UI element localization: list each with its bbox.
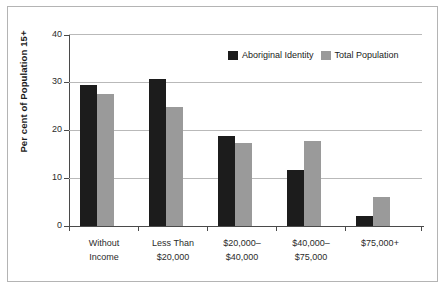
bar-total-20000-40000: [235, 143, 252, 226]
x-tick-mark-4: [345, 226, 346, 231]
legend-item-aboriginal-identity: Aboriginal Identity: [228, 50, 314, 60]
bar-total-75000-plus: [373, 197, 390, 226]
x-tick-mark-5: [421, 226, 422, 231]
bar-aboriginal-75000-plus: [356, 216, 373, 226]
y-tick-40: 40: [0, 35, 62, 47]
x-category-label-20000-40000: $20,000– $40,000: [207, 237, 277, 264]
y-tick-label-0: 0: [4, 220, 62, 230]
legend-label-aboriginal: Aboriginal Identity: [242, 50, 314, 60]
legend-label-total: Total Population: [335, 50, 399, 60]
bar-total-less-than-20000: [166, 107, 183, 226]
y-tick-label-30: 30: [4, 76, 62, 86]
y-tick-0: 0: [0, 226, 62, 238]
x-category-label-without-income: Without Income: [69, 237, 139, 264]
x-category-label-less-than-20000: Less Than $20,000: [138, 237, 208, 264]
bar-total-40000-75000: [304, 141, 321, 226]
y-tick-20: 20: [0, 130, 62, 142]
y-tick-10: 10: [0, 178, 62, 190]
plot-area: [69, 34, 422, 226]
bar-total-without-income: [97, 94, 114, 226]
x-category-label-75000-plus: $75,000+: [345, 237, 415, 251]
x-tick-mark-1: [138, 226, 139, 231]
x-tick-mark-3: [276, 226, 277, 231]
bar-aboriginal-40000-75000: [287, 170, 304, 226]
bar-aboriginal-without-income: [80, 85, 97, 226]
bar-aboriginal-less-than-20000: [149, 79, 166, 226]
legend-swatch-icon-total: [321, 51, 331, 60]
legend-swatch-icon-aboriginal: [228, 51, 238, 60]
gridline-20: [69, 130, 422, 131]
y-tick-30: 30: [0, 82, 62, 94]
y-tick-label-20: 20: [4, 124, 62, 134]
legend-item-total-population: Total Population: [321, 50, 399, 60]
gridline-40: [69, 34, 422, 35]
x-tick-mark-2: [207, 226, 208, 231]
y-tick-label-40: 40: [4, 29, 62, 39]
bar-aboriginal-20000-40000: [218, 136, 235, 226]
x-category-label-40000-75000: $40,000– $75,000: [276, 237, 346, 264]
chart-figure: Per cent of Population 15+ 40 30 20 10 0: [0, 0, 447, 292]
gridline-30: [69, 82, 422, 83]
x-axis-line: [69, 226, 424, 227]
x-tick-mark-0: [69, 226, 70, 231]
chart-legend: Aboriginal Identity Total Population: [228, 50, 399, 60]
y-tick-label-10: 10: [4, 172, 62, 182]
